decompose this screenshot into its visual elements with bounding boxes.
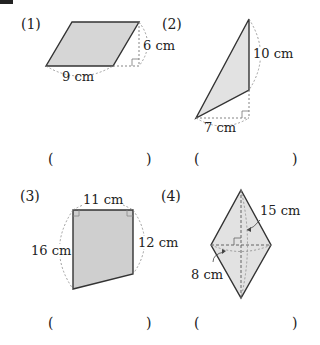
trapezoid-left-label: 16 cm xyxy=(31,244,71,257)
triangle-height-label: 10 cm xyxy=(253,47,293,60)
rhombus-long-diagonal-label: 15 cm xyxy=(260,204,300,217)
triangle-base-label: 7 cm xyxy=(204,121,236,134)
trapezoid-top-label: 11 cm xyxy=(83,193,123,206)
answer-4-close: ) xyxy=(292,316,297,330)
answer-4-open: ( xyxy=(194,316,199,330)
problem-number-1: (1) xyxy=(21,17,41,31)
problem-number-4: (4) xyxy=(161,189,181,203)
answer-2-close: ) xyxy=(292,152,297,166)
rhombus-short-diagonal-label: 8 cm xyxy=(191,268,223,281)
trapezoid-right-label: 12 cm xyxy=(138,236,178,249)
problem-number-3: (3) xyxy=(20,189,40,203)
parallelogram-figure xyxy=(46,22,148,76)
answer-3-open: ( xyxy=(48,316,53,330)
answer-3-close: ) xyxy=(146,316,151,330)
answer-1-close: ) xyxy=(146,152,151,166)
parallelogram-base-label: 9 cm xyxy=(62,70,94,83)
trapezoid-figure xyxy=(60,201,145,289)
parallelogram-height-label: 6 cm xyxy=(143,39,175,52)
problem-number-2: (2) xyxy=(162,17,182,31)
triangle-figure xyxy=(196,19,261,126)
answer-2-open: ( xyxy=(194,152,199,166)
answer-1-open: ( xyxy=(48,152,53,166)
